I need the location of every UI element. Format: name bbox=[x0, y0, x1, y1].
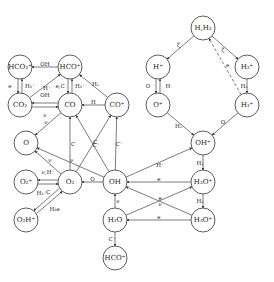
node-label: OH bbox=[109, 178, 121, 186]
node-label: H₂O bbox=[108, 216, 123, 224]
edge-label: H₂ bbox=[196, 198, 203, 204]
node-label: HCO⁺ bbox=[105, 254, 126, 262]
species-node: H₂O⁺ bbox=[191, 170, 215, 194]
species-node: H₂⁺ bbox=[235, 55, 259, 79]
node-label: O bbox=[23, 139, 29, 147]
node-label: HCO₂⁺ bbox=[8, 63, 32, 71]
edge-label: H₃e bbox=[49, 206, 59, 212]
edge-label: C⁺ bbox=[115, 141, 122, 147]
node-label: CO⁺ bbox=[110, 101, 125, 109]
edge-label: OH bbox=[40, 92, 50, 98]
node-label: O₂⁺ bbox=[20, 178, 33, 186]
node-label: H⁺ bbox=[153, 63, 163, 71]
node-label: H₃⁺ bbox=[241, 101, 254, 109]
edge-label: e,C bbox=[55, 83, 64, 89]
species-node: H⁺ bbox=[146, 55, 170, 79]
edge-label: ν bbox=[70, 157, 74, 163]
edge-label: H⁺ bbox=[43, 85, 51, 91]
edge-label: ν bbox=[43, 112, 47, 118]
species-node: HCO⁺ bbox=[103, 246, 127, 270]
reaction-edge bbox=[212, 36, 238, 59]
reaction-network-diagram: OHeH₃⁺H⁺e,CH₃⁺H₂OHνHνCC⁺CC⁺ννν,H⁺CH₃⁺H₃e… bbox=[0, 0, 274, 282]
edge-label: O bbox=[221, 119, 226, 125]
edge-label: O bbox=[90, 176, 95, 182]
edge-label: H₃⁺ bbox=[37, 190, 47, 196]
edge-label: C bbox=[71, 141, 75, 147]
edge-label: ν bbox=[116, 198, 120, 204]
nodes: HCO₂⁺HCO⁺CO₂COCO⁺OO₂⁺O₂O₂H⁺OHH₂OHCO⁺H,H₂… bbox=[8, 16, 259, 270]
species-node: HCO⁺ bbox=[58, 55, 82, 79]
edge-label: H₂ bbox=[92, 81, 99, 87]
species-node: OH bbox=[103, 170, 127, 194]
node-label: HCO⁺ bbox=[60, 63, 81, 71]
edge-label: e bbox=[8, 83, 11, 89]
edge-label: ν,H⁺ bbox=[42, 169, 55, 175]
edge-label: e bbox=[157, 176, 160, 182]
node-label: OH⁺ bbox=[195, 139, 211, 147]
species-node: H₃O⁺ bbox=[191, 208, 215, 232]
reaction-edge bbox=[35, 113, 61, 135]
edge-label: C⁺ bbox=[108, 236, 115, 242]
species-node: H₃⁺ bbox=[235, 93, 259, 117]
species-node: O₂H⁺ bbox=[14, 208, 38, 232]
edge-label: H bbox=[166, 83, 171, 89]
edge-label: H bbox=[91, 99, 96, 105]
node-label: O⁺ bbox=[153, 101, 163, 109]
species-node: CO⁺ bbox=[105, 93, 129, 117]
edge-label: H₃⁺ bbox=[25, 83, 35, 89]
edge-label: H₂ bbox=[175, 123, 182, 129]
species-node: HCO₂⁺ bbox=[8, 55, 32, 79]
edge-label: ν bbox=[159, 201, 163, 207]
node-label: H,H₂ bbox=[194, 24, 211, 32]
species-node: H₂O bbox=[103, 208, 127, 232]
species-node: OH⁺ bbox=[191, 131, 215, 155]
edge-label: ζ bbox=[177, 42, 180, 49]
edge-label: H⁺ bbox=[156, 162, 164, 168]
edge-label: H₂ bbox=[240, 83, 247, 89]
edge-label: ζ bbox=[222, 47, 225, 54]
edge-label: ν bbox=[48, 157, 52, 163]
node-label: H₂O⁺ bbox=[194, 178, 213, 186]
species-node: O₂⁺ bbox=[14, 170, 38, 194]
edge-label: C bbox=[93, 139, 97, 145]
species-node: CO₂ bbox=[8, 93, 32, 117]
edge-label: H₂ bbox=[196, 160, 203, 166]
node-label: O₂ bbox=[66, 178, 75, 186]
species-node: O⁺ bbox=[146, 93, 170, 117]
edge-label: e bbox=[226, 62, 229, 68]
edge-label: C bbox=[46, 189, 50, 195]
edge-label: e bbox=[157, 214, 160, 220]
node-label: CO bbox=[64, 101, 75, 109]
node-label: CO₂ bbox=[13, 101, 27, 109]
node-label: O₂H⁺ bbox=[17, 216, 36, 224]
edge-label: OH bbox=[40, 61, 50, 67]
species-node: CO bbox=[58, 93, 82, 117]
species-node: O₂ bbox=[58, 170, 82, 194]
reaction-edge bbox=[167, 36, 194, 59]
node-label: H₃O⁺ bbox=[194, 216, 213, 224]
edge-label: O bbox=[146, 83, 151, 89]
species-node: O bbox=[14, 131, 38, 155]
edge-label: H₃⁺ bbox=[75, 83, 85, 89]
species-node: H,H₂ bbox=[191, 16, 215, 40]
node-label: H₂⁺ bbox=[241, 63, 254, 71]
